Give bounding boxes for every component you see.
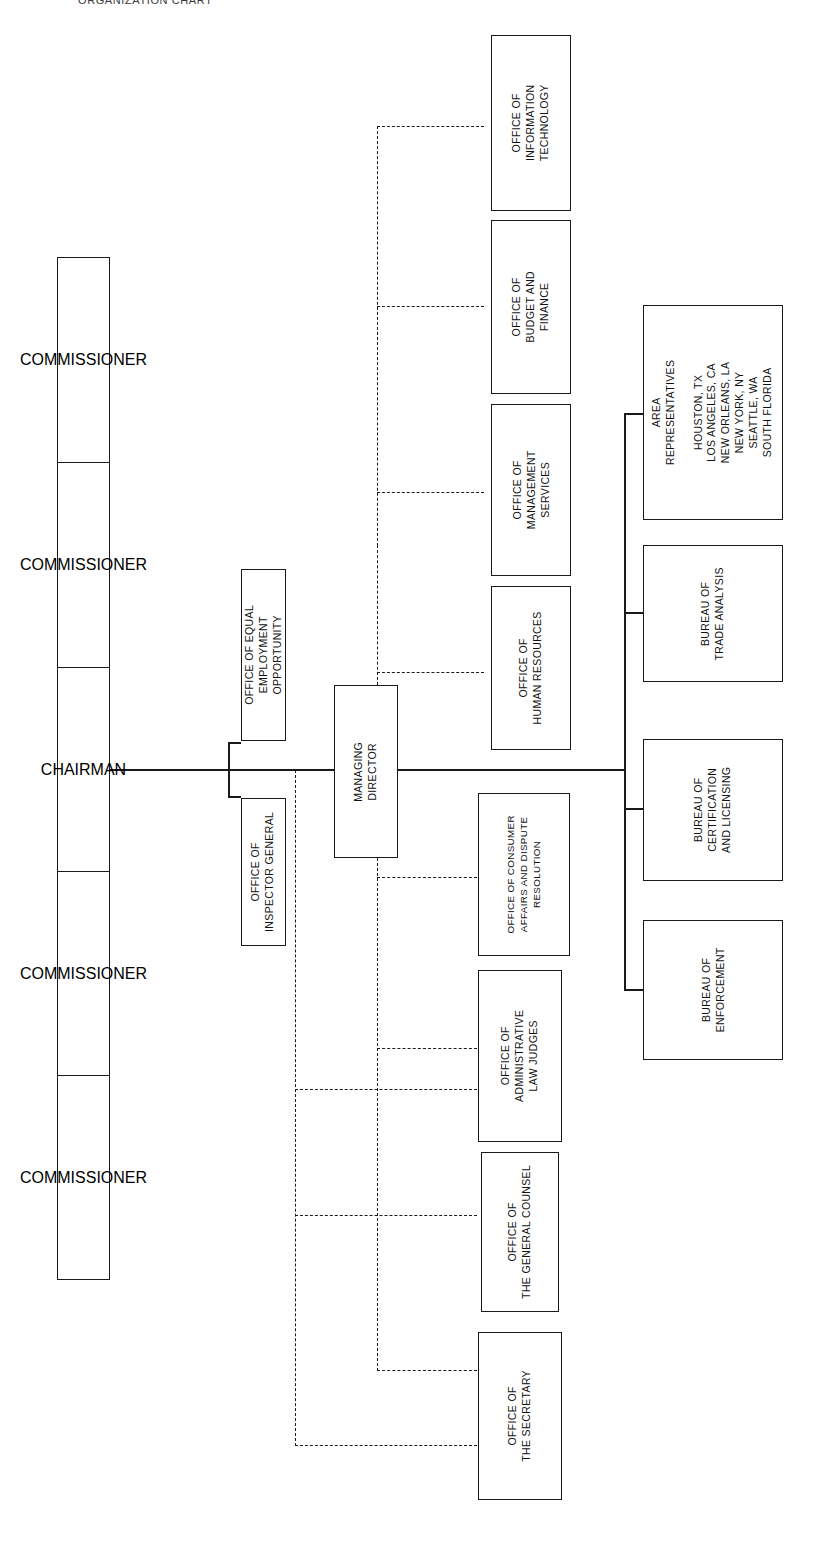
dashed-trunk-program-secondary	[295, 770, 296, 1446]
board-member-label: COMMISSIONER	[20, 556, 147, 574]
office-of-equal-employment-opportunity: OFFICE OF EQUAL EMPLOYMENT OPPORTUNITY	[241, 569, 286, 741]
office-of-management-services: OFFICE OF MANAGEMENT SERVICES	[491, 404, 571, 576]
managing-director-label: MANAGING DIRECTOR	[352, 742, 380, 802]
bureau-label: BUREAU OF ENFORCEMENT	[699, 948, 727, 1033]
board-member-commissioner-3: COMMISSIONER	[57, 462, 110, 668]
dashed-branch-law-judges-secondary	[295, 1089, 477, 1090]
office-of-information-technology: OFFICE OF INFORMATION TECHNOLOGY	[491, 35, 571, 211]
office-of-budget-and-finance: OFFICE OF BUDGET AND FINANCE	[491, 220, 571, 394]
bureau-of-enforcement: BUREAU OF ENFORCEMENT	[643, 920, 783, 1060]
office-of-human-resources: OFFICE OF HUMAN RESOURCES	[491, 586, 571, 750]
board-member-commissioner-2: COMMISSIONER	[57, 871, 110, 1076]
office-label: OFFICE OF THE SECRETARY	[506, 1370, 534, 1462]
dashed-branch-management-services	[377, 492, 484, 493]
connector-to-bureau-of-certification-and-licensing	[624, 808, 643, 810]
board-member-commissioner-1: COMMISSIONER	[57, 1075, 110, 1280]
board-member-chairman: CHAIRMAN	[57, 667, 110, 872]
bureau-label: BUREAU OF CERTIFICATION AND LICENSING	[692, 767, 734, 853]
dashed-trunk-administrative-upper	[377, 126, 378, 546]
office-of-administrative-law-judges: OFFICE OF ADMINISTRATIVE LAW JUDGES	[478, 970, 562, 1142]
dashed-branch-the-secretary	[377, 1370, 477, 1371]
dashed-branch-human-resources	[377, 672, 484, 673]
bureau-of-certification-and-licensing: BUREAU OF CERTIFICATION AND LICENSING	[643, 739, 783, 881]
dashed-branch-information-technology	[377, 126, 484, 127]
office-of-consumer-affairs-and-dispute-resolution: OFFICE OF CONSUMER AFFAIRS AND DISPUTE R…	[478, 793, 570, 956]
spine-chairman-to-staff	[110, 769, 229, 771]
connector-to-bureau-of-trade-analysis	[624, 612, 643, 614]
office-label: OFFICE OF ADMINISTRATIVE LAW JUDGES	[499, 1010, 541, 1102]
managing-director: MANAGING DIRECTOR	[334, 685, 398, 858]
dashed-branch-budget-and-finance	[377, 306, 484, 307]
office-label: OFFICE OF THE GENERAL COUNSEL	[506, 1165, 534, 1299]
dashed-branch-consumer-affairs	[377, 877, 477, 878]
area-representatives: AREA REPRESENTATIVES HOUSTON, TX LOS ANG…	[643, 305, 783, 520]
office-of-the-secretary: OFFICE OF THE SECRETARY	[478, 1332, 562, 1500]
board-member-label: COMMISSIONER	[20, 1169, 147, 1187]
office-label: OFFICE OF MANAGEMENT SERVICES	[510, 451, 552, 530]
chart-caption: ORGANIZATION CHART	[78, 0, 212, 6]
board-member-commissioner-4: COMMISSIONER	[57, 257, 110, 463]
bureau-trunk	[624, 413, 626, 990]
connector-to-inspector-general-office	[228, 796, 241, 798]
connector-to-equal-employment-office	[228, 742, 241, 744]
office-label: OFFICE OF EQUAL EMPLOYMENT OPPORTUNITY	[243, 605, 285, 705]
office-of-the-general-counsel: OFFICE OF THE GENERAL COUNSEL	[481, 1152, 559, 1312]
office-label: OFFICE OF INSPECTOR GENERAL	[250, 812, 278, 932]
spine-managing-director-to-bureaus	[397, 769, 625, 771]
dashed-trunk-administrative	[377, 545, 378, 685]
board-member-label: COMMISSIONER	[20, 965, 147, 983]
spine-staff-to-managing-director	[228, 769, 334, 771]
bureau-label: BUREAU OF TRADE ANALYSIS	[699, 567, 727, 660]
board-member-label: COMMISSIONER	[20, 351, 147, 369]
office-label: OFFICE OF HUMAN RESOURCES	[517, 611, 545, 724]
bureau-of-trade-analysis: BUREAU OF TRADE ANALYSIS	[643, 545, 783, 682]
connector-to-bureau-of-enforcement	[624, 989, 643, 991]
organization-chart: ORGANIZATION CHART COMMISSIONER COMMISSI…	[0, 0, 834, 1542]
dashed-branch-administrative-law-judges	[377, 1048, 477, 1049]
board-member-label: CHAIRMAN	[41, 761, 126, 779]
dashed-trunk-program	[377, 858, 378, 1371]
dashed-branch-secretary-secondary	[295, 1445, 477, 1446]
dashed-branch-general-counsel	[295, 1215, 477, 1216]
office-label: OFFICE OF CONSUMER AFFAIRS AND DISPUTE R…	[505, 815, 544, 933]
office-label: OFFICE OF BUDGET AND FINANCE	[510, 271, 552, 343]
connector-to-area-representatives	[624, 413, 643, 415]
office-label: OFFICE OF INFORMATION TECHNOLOGY	[510, 84, 552, 161]
area-representatives-label: AREA REPRESENTATIVES HOUSTON, TX LOS ANG…	[651, 360, 776, 465]
office-of-inspector-general: OFFICE OF INSPECTOR GENERAL	[241, 798, 286, 946]
